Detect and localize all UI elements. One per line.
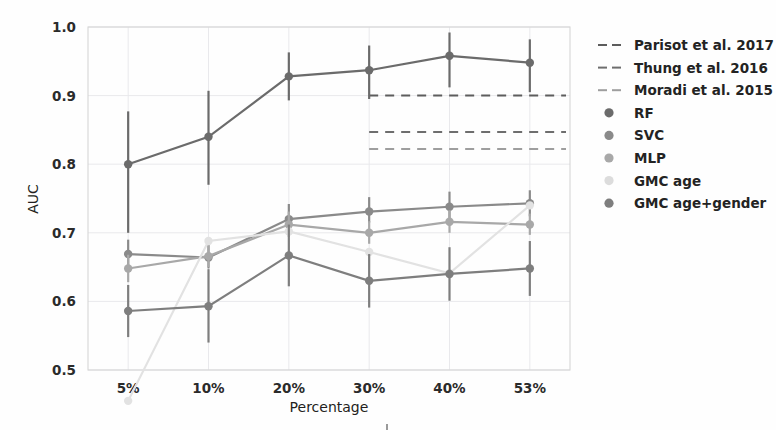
- legend-entry-label: RF: [634, 105, 654, 121]
- data-point-marker: [365, 277, 373, 285]
- plot-frame: [88, 27, 570, 370]
- legend-marker-swatch: [604, 199, 613, 208]
- x-axis-title: Percentage: [290, 399, 369, 415]
- data-point-marker: [526, 264, 534, 272]
- data-point-marker: [526, 58, 534, 66]
- legend-marker-swatch: [604, 153, 613, 162]
- x-tick-label: 30%: [353, 380, 386, 396]
- y-tick-label: 1.0: [52, 19, 76, 35]
- data-point-marker: [124, 160, 132, 168]
- data-point-marker: [204, 302, 212, 310]
- data-point-marker: [445, 270, 453, 278]
- legend-entry-label: MLP: [634, 150, 666, 166]
- y-tick-label: 0.9: [52, 88, 76, 104]
- x-tick-label: 10%: [192, 380, 225, 396]
- legend-entry-label: GMC age: [634, 173, 701, 189]
- legend-marker-swatch: [604, 131, 613, 140]
- x-axis-tick-labels: 5%10%20%30%40%53%: [117, 380, 547, 396]
- reference-lines: [369, 96, 566, 150]
- data-point-marker: [285, 72, 293, 80]
- y-tick-label: 0.6: [52, 293, 76, 309]
- page-artifact-mark: [386, 424, 388, 430]
- data-point-marker: [285, 251, 293, 259]
- data-point-marker: [365, 207, 373, 215]
- series-line: [128, 203, 530, 257]
- legend-entry-label: GMC age+gender: [634, 195, 767, 211]
- legend-entry-label: Thung et al. 2016: [634, 60, 768, 76]
- data-point-marker: [445, 52, 453, 60]
- y-axis-title: AUC: [25, 184, 41, 214]
- y-axis-tick-labels: 0.50.60.70.80.91.0: [52, 19, 76, 378]
- series-line: [128, 205, 530, 401]
- data-point-marker: [124, 397, 132, 405]
- data-series-group: [124, 32, 534, 405]
- data-point-marker: [204, 252, 212, 260]
- data-point-marker: [204, 237, 212, 245]
- auc-vs-percentage-chart: 0.50.60.70.80.91.0 5%10%20%30%40%53% AUC…: [0, 0, 776, 430]
- data-point-marker: [526, 201, 534, 209]
- data-point-marker: [124, 264, 132, 272]
- data-point-marker: [445, 203, 453, 211]
- data-point-marker: [204, 133, 212, 141]
- data-point-marker: [445, 218, 453, 226]
- data-point-marker: [124, 307, 132, 315]
- y-tick-label: 0.8: [52, 156, 76, 172]
- x-tick-label: 40%: [433, 380, 466, 396]
- data-point-marker: [365, 66, 373, 74]
- legend-entry-label: SVC: [634, 127, 664, 143]
- x-tick-label: 53%: [514, 380, 547, 396]
- series-line: [128, 222, 530, 269]
- y-tick-label: 0.5: [52, 362, 76, 378]
- plot-gridlines: [88, 27, 570, 370]
- data-point-marker: [365, 229, 373, 237]
- legend-entry-label: Parisot et al. 2017: [634, 37, 774, 53]
- series-gmc-age: [124, 201, 534, 405]
- y-tick-label: 0.7: [52, 225, 76, 241]
- series-line: [128, 56, 530, 164]
- legend-marker-swatch: [604, 108, 613, 117]
- figure-container: 0.50.60.70.80.91.0 5%10%20%30%40%53% AUC…: [0, 0, 776, 430]
- legend: Parisot et al. 2017Thung et al. 2016Mora…: [598, 37, 774, 211]
- data-point-marker: [526, 220, 534, 228]
- legend-entry-label: Moradi et al. 2015: [634, 82, 773, 98]
- legend-marker-swatch: [604, 176, 613, 185]
- x-tick-label: 20%: [273, 380, 306, 396]
